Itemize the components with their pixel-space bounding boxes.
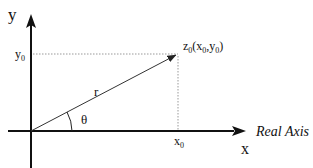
- x0-label: x0: [174, 134, 184, 150]
- point-z0-label: z0(x0,y0): [183, 39, 223, 55]
- vector-r: [31, 55, 176, 131]
- y-axis-label: y: [8, 5, 17, 24]
- complex-plane-diagram: y y0 r θ z0(x0,y0) x0 Real Axis x: [0, 0, 313, 168]
- y0-label: y0: [15, 47, 25, 63]
- theta-label: θ: [81, 112, 87, 127]
- x-axis-label: x: [241, 140, 249, 157]
- angle-arc: [67, 112, 72, 131]
- vector-r-label: r: [94, 84, 99, 99]
- x-axis-arrowhead: [232, 126, 246, 136]
- real-axis-label: Real Axis: [255, 124, 310, 139]
